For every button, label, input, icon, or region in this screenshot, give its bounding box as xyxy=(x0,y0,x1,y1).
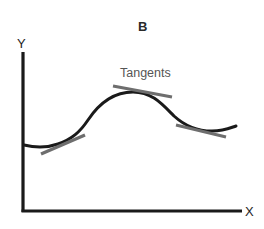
y-axis-label: Y xyxy=(17,37,26,50)
diagram-graphic xyxy=(0,0,264,229)
tangent-diagram: B Y X Tangents xyxy=(0,0,264,229)
diagram-title: B xyxy=(138,20,147,33)
tangent-line-peak xyxy=(113,86,172,97)
tangent-line-left xyxy=(41,135,85,154)
tangents-annotation: Tangents xyxy=(120,67,171,80)
x-axis-label: X xyxy=(245,205,254,218)
function-curve xyxy=(24,92,236,147)
